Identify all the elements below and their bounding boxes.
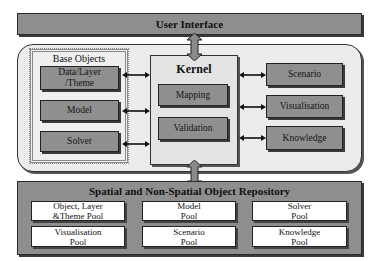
user-interface-bar: User Interface	[17, 13, 362, 35]
double-arrow-icon	[239, 104, 266, 110]
mapping-box: Mapping	[158, 84, 228, 106]
solver-box: Solver	[40, 131, 119, 152]
repository-title: Spatial and Non-Spatial Object Repositor…	[18, 185, 361, 197]
validation-box: Validation	[158, 117, 228, 140]
double-arrow-icon	[122, 108, 150, 114]
pool-label: Solver Pool	[280, 201, 320, 221]
knowledge-box: Knowledge	[266, 126, 343, 150]
solver-pool: Solver Pool	[252, 201, 347, 221]
knowledge-pool: Knowledge Pool	[252, 226, 347, 247]
visualisation-label: Visualisation	[280, 101, 330, 112]
scenario-pool: Scenario Pool	[142, 226, 236, 247]
model-pool: Model Pool	[142, 201, 236, 221]
pool-label: Visualisation Pool	[48, 227, 108, 247]
kernel-box: Kernel	[150, 55, 238, 165]
pool-label: Scenario Pool	[167, 227, 212, 247]
vertical-double-arrow-icon	[187, 33, 202, 61]
visualisation-box: Visualisation	[266, 95, 343, 118]
double-arrow-icon	[122, 141, 150, 147]
base-objects-title: Base Objects	[33, 53, 125, 64]
pool-label: Model Pool	[169, 201, 209, 221]
data-layer-theme-box: Data/Layer /Theme	[40, 66, 119, 90]
solver-label: Solver	[67, 136, 92, 147]
mapping-label: Mapping	[176, 90, 210, 101]
pool-label: Object, Layer &Theme Pool	[39, 201, 117, 221]
model-label: Model	[67, 105, 92, 116]
user-interface-label: User Interface	[156, 18, 223, 30]
double-arrow-icon	[239, 135, 266, 141]
knowledge-label: Knowledge	[283, 133, 327, 144]
object-layer-theme-pool: Object, Layer &Theme Pool	[31, 201, 125, 221]
validation-label: Validation	[173, 123, 212, 134]
data-layer-theme-label: Data/Layer /Theme	[55, 67, 105, 89]
double-arrow-icon	[122, 72, 150, 78]
kernel-title: Kernel	[151, 62, 237, 77]
visualisation-pool: Visualisation Pool	[31, 226, 125, 247]
scenario-label: Scenario	[288, 69, 321, 80]
model-box: Model	[40, 100, 119, 121]
double-arrow-icon	[239, 72, 266, 78]
pool-label: Knowledge Pool	[275, 227, 325, 247]
scenario-box: Scenario	[266, 63, 343, 86]
